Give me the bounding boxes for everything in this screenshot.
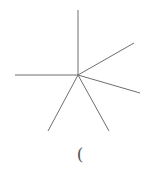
ray-upper-right — [78, 43, 134, 75]
caption-text: ( — [74, 144, 86, 164]
ray-down-left — [48, 75, 78, 131]
ray-down-right — [78, 75, 109, 131]
rays-group — [15, 10, 140, 131]
ray-lower-right — [78, 75, 140, 93]
